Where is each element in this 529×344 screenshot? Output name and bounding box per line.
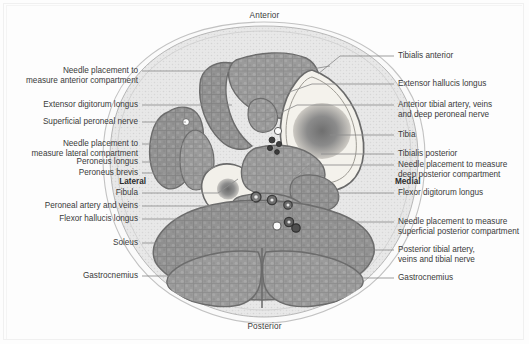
callout-label-line: Flexor hallucis longus: [59, 214, 138, 224]
callout-label-line: and deep peroneal nerve: [398, 110, 492, 120]
callout-label-line: Superficial peroneal nerve: [43, 117, 138, 127]
callout-label-peroneus-longus: Peroneus longus: [77, 157, 138, 167]
callout-label-flexor-digitorum-longus: Flexor digitorum longus: [398, 188, 483, 198]
callout-label-extensor-hallucis-longus: Extensor hallucis longus: [398, 79, 486, 89]
callout-label-posterior-tibial-artery-veins-tibial-nerve: Posterior tibial artery,veins and tibial…: [398, 245, 475, 266]
callout-label-line: Tibialis posterior: [398, 149, 457, 159]
callout-label-line: Needle placement to measure: [398, 217, 519, 227]
callout-label-line: Fibula: [116, 188, 138, 198]
callout-label-peroneal-artery-and-veins: Peroneal artery and veins: [45, 201, 138, 211]
orientation-label-posterior: Posterior: [0, 322, 529, 331]
callout-label-line: Needle placement to: [26, 66, 138, 76]
callout-label-line: deep posterior compartment: [398, 170, 507, 180]
figure-canvas: Anterior Posterior Lateral Medial Needle…: [0, 0, 529, 344]
callout-label-line: Needle placement to measure: [398, 160, 507, 170]
callout-label-fibula: Fibula: [116, 188, 138, 198]
callout-label-soleus: Soleus: [113, 238, 138, 248]
orientation-label-anterior: Anterior: [0, 11, 529, 20]
callout-label-line: Tibia: [398, 130, 415, 140]
callout-label-line: superficial posterior compartment: [398, 227, 519, 237]
callout-label-tibialis-posterior: Tibialis posterior: [398, 149, 457, 159]
callout-label-extensor-digitorum-longus: Extensor digitorum longus: [43, 100, 138, 110]
callout-label-line: Peroneal artery and veins: [45, 201, 138, 211]
callout-label-line: Tibialis anterior: [398, 51, 453, 61]
callout-label-flexor-hallucis-longus: Flexor hallucis longus: [59, 214, 138, 224]
callout-label-line: Extensor hallucis longus: [398, 79, 486, 89]
callout-label-gastrocnemius-right: Gastrocnemius: [398, 273, 453, 283]
callout-label-line: Extensor digitorum longus: [43, 100, 138, 110]
callout-label-line: measure anterior compartment: [26, 76, 138, 86]
bone-fibula-marrow: [217, 179, 239, 200]
callout-label-line: veins and tibial nerve: [398, 255, 475, 265]
callout-label-line: Posterior tibial artery,: [398, 245, 475, 255]
callout-label-line: Peroneus brevis: [79, 168, 138, 178]
callout-label-line: Flexor digitorum longus: [398, 188, 483, 198]
callout-label-line: Peroneus longus: [77, 157, 138, 167]
callout-label-needle-superficial-posterior-compartment: Needle placement to measuresuperficial p…: [398, 217, 519, 238]
callout-label-peroneus-brevis: Peroneus brevis: [79, 168, 138, 178]
callout-label-line: Anterior tibial artery, veins: [398, 100, 492, 110]
callout-label-needle-anterior-compartment: Needle placement tomeasure anterior comp…: [26, 66, 138, 87]
callout-label-line: Gastrocnemius: [83, 271, 138, 281]
callout-label-tibia: Tibia: [398, 130, 415, 140]
callout-label-line: Gastrocnemius: [398, 273, 453, 283]
callout-label-needle-deep-posterior-compartment: Needle placement to measuredeep posterio…: [398, 160, 507, 181]
callout-label-tibialis-anterior: Tibialis anterior: [398, 51, 453, 61]
callout-label-line: Needle placement to: [32, 139, 138, 149]
callout-label-anterior-tibial-artery-veins-deep-peroneal-nerve: Anterior tibial artery, veinsand deep pe…: [398, 100, 492, 121]
callout-label-gastrocnemius-left: Gastrocnemius: [83, 271, 138, 281]
callout-label-line: Soleus: [113, 238, 138, 248]
callout-label-superficial-peroneal-nerve: Superficial peroneal nerve: [43, 117, 138, 127]
